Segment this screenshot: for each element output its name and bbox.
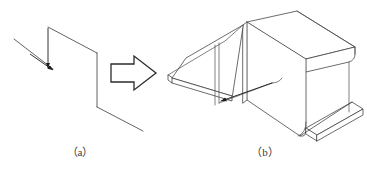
transform-arrow-icon bbox=[111, 56, 156, 90]
web-panel-left-thickness bbox=[243, 22, 247, 103]
panel-b-solid-model bbox=[168, 11, 363, 141]
dimension-arrow-diagonal bbox=[30, 54, 53, 70]
wireframe-segment-lower-right-diagonal bbox=[97, 107, 143, 131]
wireframe-segment-top-diagonal bbox=[48, 27, 97, 53]
panel-a-dimension-arrows bbox=[30, 28, 53, 70]
wireframe-segment-upper-left-diagonal bbox=[14, 39, 53, 69]
left-flange-left-thickness bbox=[168, 75, 172, 83]
figure-container: （a） （b） bbox=[0, 0, 367, 171]
panel-a-caption: （a） bbox=[0, 143, 160, 159]
panel-b-caption: （b） bbox=[185, 143, 345, 159]
